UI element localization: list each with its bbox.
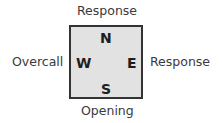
south-role-label: Opening xyxy=(81,104,134,118)
west-role-label: Overcall xyxy=(12,55,63,69)
north-role-label: Response xyxy=(77,4,137,18)
seat-south: S xyxy=(101,82,111,96)
east-role-label: Response xyxy=(150,55,210,69)
seat-west: W xyxy=(76,56,91,70)
seat-north: N xyxy=(100,31,112,45)
seat-east: E xyxy=(127,56,137,70)
card-table: N W E S xyxy=(69,25,143,99)
